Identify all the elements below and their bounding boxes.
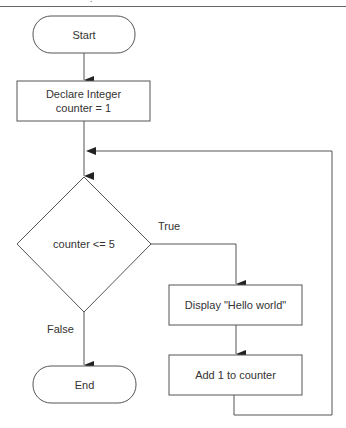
false-branch-label: False [47, 323, 74, 335]
arrow-true-to-display [151, 244, 236, 284]
decision-label: counter <= 5 [17, 234, 151, 254]
display-label: Display "Hello world" [169, 285, 302, 325]
declare-label: Declare Integer counter = 1 [17, 81, 150, 121]
declare-label-line2: counter = 1 [56, 101, 111, 115]
end-label: End [33, 366, 136, 403]
loop-back-arrowhead [86, 147, 96, 155]
increment-label: Add 1 to counter [169, 355, 302, 395]
declare-label-line1: Declare Integer [46, 87, 121, 101]
start-label: Start [33, 16, 135, 53]
true-branch-label: True [158, 220, 180, 232]
